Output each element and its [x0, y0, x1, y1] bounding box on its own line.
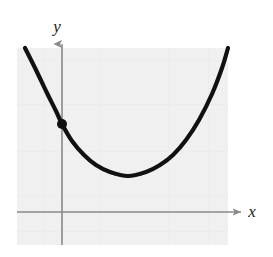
- parabola-figure-svg: y x: [0, 0, 273, 257]
- figure-root: y x: [0, 0, 273, 257]
- y-intercept-point: [57, 119, 67, 129]
- y-axis-label: y: [51, 17, 61, 36]
- plot-background-panel: [17, 48, 228, 245]
- x-axis-label: x: [247, 202, 256, 221]
